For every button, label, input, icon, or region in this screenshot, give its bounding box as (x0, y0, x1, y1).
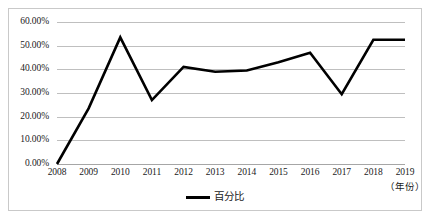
gridline (57, 164, 405, 165)
y-tick-label: 10.00% (20, 136, 49, 146)
x-tick-label: 2008 (48, 168, 67, 178)
y-tick-label: 60.00% (20, 17, 49, 27)
x-tick-label: 2011 (143, 168, 161, 178)
y-tick-label: 40.00% (20, 65, 49, 75)
y-tick-label: 0.00% (25, 159, 49, 169)
x-axis: 2008200920102011201220132014201520162017… (57, 168, 405, 182)
x-tick-label: 2017 (332, 168, 351, 178)
x-tick-label: 2010 (111, 168, 130, 178)
chart-figure: 0.00%10.00%20.00%30.00%40.00%50.00%60.00… (8, 8, 422, 211)
legend-line-swatch-icon (186, 196, 210, 199)
x-tick-label: 2009 (79, 168, 98, 178)
legend-item-percentage: 百分比 (186, 192, 244, 203)
series-line-百分比 (57, 37, 405, 164)
y-tick-label: 50.00% (20, 41, 49, 51)
y-axis: 0.00%10.00%20.00%30.00%40.00%50.00%60.00… (9, 22, 53, 164)
x-tick-label: 2013 (206, 168, 225, 178)
x-tick-label: 2012 (174, 168, 193, 178)
legend-item-label: 百分比 (214, 192, 244, 203)
plot-area (57, 22, 405, 164)
chart-legend: 百分比 (9, 192, 421, 203)
x-tick-label: 2016 (301, 168, 320, 178)
y-tick-label: 30.00% (20, 88, 49, 98)
x-tick-label: 2015 (269, 168, 288, 178)
y-tick-label: 20.00% (20, 112, 49, 122)
x-tick-label: 2018 (364, 168, 383, 178)
x-tick-label: 2014 (238, 168, 257, 178)
x-tick-label: 2019 (396, 168, 415, 178)
line-series-svg (57, 22, 405, 164)
